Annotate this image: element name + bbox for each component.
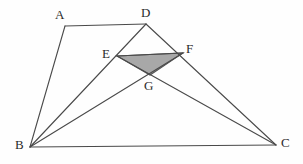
segment-dc bbox=[146, 24, 276, 145]
geometry-figure: A D E F G B C bbox=[0, 0, 303, 164]
vertex-label-e: E bbox=[102, 47, 110, 60]
vertex-label-g: G bbox=[144, 79, 153, 92]
vertex-label-b: B bbox=[15, 138, 24, 151]
vertex-label-f: F bbox=[186, 42, 193, 55]
shaded-triangle-efg bbox=[117, 53, 183, 75]
segment-ec bbox=[117, 56, 276, 145]
segment-ad bbox=[65, 24, 146, 26]
vertex-label-c: C bbox=[281, 136, 290, 149]
segment-bc bbox=[30, 145, 276, 147]
vertex-label-a: A bbox=[55, 8, 64, 21]
vertex-label-d: D bbox=[141, 6, 150, 19]
